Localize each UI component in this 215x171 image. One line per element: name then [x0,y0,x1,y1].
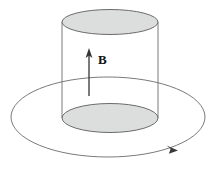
cylinder-top-cap [62,10,158,35]
magnetic-field-diagram [0,0,215,171]
magnetic-field-label: B [98,53,107,66]
cylinder-bottom-cap [62,104,158,133]
figure-container: B [0,0,215,171]
